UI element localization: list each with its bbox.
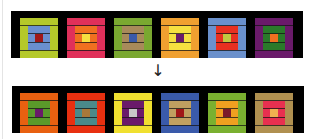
center-square: [270, 34, 278, 42]
input-tile-6: [255, 18, 293, 58]
middle-line: [263, 42, 285, 43]
output-tile-4: [161, 93, 199, 133]
middle-square: [169, 101, 191, 125]
frame-line: [20, 125, 58, 126]
middle-square: [28, 101, 50, 125]
frame-line: [161, 125, 199, 126]
middle-square: [75, 101, 97, 125]
middle-square: [122, 101, 144, 125]
middle-square: [75, 26, 97, 50]
center-square: [35, 34, 43, 42]
frame-line: [67, 125, 105, 126]
center-square: [82, 109, 90, 117]
input-tile-2: [67, 18, 105, 58]
middle-line: [122, 42, 144, 43]
center-square: [223, 34, 231, 42]
frame-line: [161, 50, 199, 51]
middle-square: [263, 26, 285, 50]
input-tile-strip: [11, 11, 303, 58]
middle-line: [75, 117, 97, 118]
output-tile-5: [208, 93, 246, 133]
frame-line: [255, 125, 293, 126]
output-tile-1: [20, 93, 58, 133]
middle-line: [122, 117, 144, 118]
center-square: [82, 34, 90, 42]
middle-line: [28, 42, 50, 43]
frame-line: [255, 50, 293, 51]
frame-line: [208, 125, 246, 126]
down-arrow-icon: ↓: [150, 62, 166, 80]
center-square: [176, 34, 184, 42]
middle-line: [216, 42, 238, 43]
output-tile-3: [114, 93, 152, 133]
frame-line: [114, 50, 152, 51]
middle-line: [75, 42, 97, 43]
input-tile-4: [161, 18, 199, 58]
middle-square: [28, 26, 50, 50]
middle-square: [169, 26, 191, 50]
frame-line: [67, 50, 105, 51]
center-square: [35, 109, 43, 117]
input-tile-3: [114, 18, 152, 58]
input-tile-1: [20, 18, 58, 58]
middle-line: [169, 42, 191, 43]
middle-square: [216, 101, 238, 125]
frame-line: [20, 50, 58, 51]
middle-line: [169, 117, 191, 118]
frame-line: [208, 50, 246, 51]
left-border-rule: [2, 0, 3, 139]
center-square: [176, 109, 184, 117]
middle-square: [216, 26, 238, 50]
frame-line: [114, 125, 152, 126]
output-tile-6: [255, 93, 293, 133]
middle-square: [263, 101, 285, 125]
center-square: [270, 109, 278, 117]
center-square: [129, 34, 137, 42]
middle-square: [122, 26, 144, 50]
center-square: [129, 109, 137, 117]
input-tile-5: [208, 18, 246, 58]
middle-line: [263, 117, 285, 118]
middle-line: [28, 117, 50, 118]
center-square: [223, 109, 231, 117]
output-tile-2: [67, 93, 105, 133]
middle-line: [216, 117, 238, 118]
output-tile-strip: [12, 86, 304, 133]
